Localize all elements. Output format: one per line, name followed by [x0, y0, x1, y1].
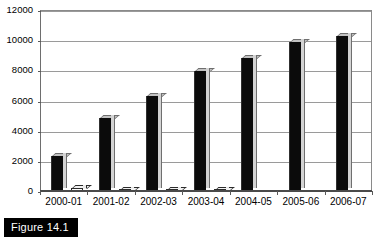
- bar: [99, 118, 111, 191]
- x-axis-tick-mark: [135, 191, 136, 195]
- bar-front-face: [336, 36, 348, 191]
- bar-side-face: [301, 39, 305, 188]
- bar-front-face: [99, 118, 111, 191]
- y-axis-tick-label: 4000: [0, 126, 33, 136]
- y-axis-tick-label: 2000: [0, 156, 33, 166]
- y-axis-tick-label: 12000: [0, 5, 33, 15]
- x-axis-tick-label: 2005-06: [277, 196, 324, 207]
- x-axis-tick-mark: [40, 191, 41, 195]
- bar: [194, 71, 206, 191]
- x-axis-tick-label: 2006-07: [325, 196, 372, 207]
- x-axis-tick-label: 2001-02: [87, 196, 134, 207]
- bar-front-face: [289, 42, 301, 191]
- bar-side-face: [253, 55, 257, 188]
- figure-container: 120001000080006000400020000 2000-012001-…: [0, 0, 374, 240]
- bar-front-face: [146, 96, 158, 191]
- bar: [289, 42, 301, 191]
- bar-side-face: [111, 115, 115, 188]
- bar-side-face: [131, 187, 135, 189]
- bar-side-face: [158, 93, 162, 188]
- bar-group: [136, 11, 183, 191]
- bar-group: [41, 11, 88, 191]
- x-axis-tick-mark: [277, 191, 278, 195]
- x-axis-labels: 2000-012001-022002-032003-042004-052005-…: [40, 196, 372, 212]
- bar-front-face: [241, 58, 253, 191]
- bar-side-face: [226, 187, 230, 189]
- bar-group: [278, 11, 325, 191]
- bar-front-face: [194, 71, 206, 191]
- x-axis-tick-mark: [230, 191, 231, 195]
- bar-side-face: [348, 33, 352, 188]
- bar-group: [326, 11, 373, 191]
- x-axis-tick-label: 2003-04: [182, 196, 229, 207]
- bar-front-face: [51, 156, 63, 191]
- bar-group: [88, 11, 135, 191]
- chart-plot-area: [40, 10, 372, 191]
- x-axis-tick-label: 2002-03: [135, 196, 182, 207]
- bar: [146, 96, 158, 191]
- x-axis-tick-mark: [325, 191, 326, 195]
- y-axis-tick-label: 8000: [0, 65, 33, 75]
- bar: [241, 58, 253, 191]
- x-axis-tick-label: 2000-01: [40, 196, 87, 207]
- bar-side-face: [206, 68, 210, 188]
- bar: [336, 36, 348, 191]
- category-axis-line: [40, 190, 372, 192]
- y-axis-tick-label: 0: [0, 186, 33, 196]
- x-axis-tick-mark: [182, 191, 183, 195]
- bar: [51, 156, 63, 191]
- bar-group: [183, 11, 230, 191]
- bar-side-face: [178, 187, 182, 189]
- y-axis-tick-label: 6000: [0, 96, 33, 106]
- x-axis-tick-label: 2004-05: [230, 196, 277, 207]
- x-axis-tick-mark: [87, 191, 88, 195]
- x-axis-tick-mark: [372, 191, 373, 195]
- bar-side-face: [63, 153, 67, 188]
- figure-caption: Figure 14.1: [4, 218, 78, 237]
- y-axis-tick-label: 10000: [0, 35, 33, 45]
- bar-side-face: [83, 185, 87, 188]
- bar-group: [231, 11, 278, 191]
